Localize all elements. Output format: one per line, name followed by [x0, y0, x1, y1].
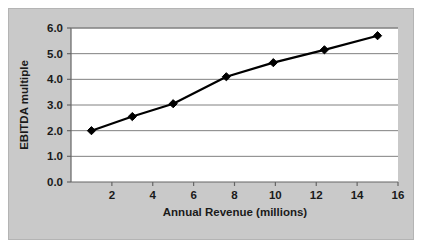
- x-tick-label-12: 12: [310, 189, 323, 201]
- x-tick-label-2: 2: [109, 189, 115, 201]
- y-tick-label-1: 1.0: [47, 150, 63, 162]
- y-tick-label-5: 5.0: [47, 48, 63, 60]
- y-tick-label-2: 2.0: [47, 125, 63, 137]
- y-tick-label-6: 6.0: [47, 22, 63, 34]
- x-tick-label-4: 4: [150, 189, 157, 201]
- x-tick-label-16: 16: [392, 189, 405, 201]
- x-axis-ticks: 246810121416: [109, 182, 405, 201]
- x-tick-label-14: 14: [351, 189, 364, 201]
- x-tick-label-8: 8: [231, 189, 238, 201]
- ebitda-multiple-line-chart: 0.01.02.03.04.05.06.0 246810121416 Annua…: [0, 0, 423, 250]
- y-tick-label-0: 0.0: [47, 176, 63, 188]
- y-tick-label-3: 3.0: [47, 99, 63, 111]
- x-tick-label-10: 10: [269, 189, 282, 201]
- y-axis-ticks: 0.01.02.03.04.05.06.0: [47, 22, 71, 188]
- chart-figure: 0.01.02.03.04.05.06.0 246810121416 Annua…: [0, 0, 423, 250]
- x-tick-label-6: 6: [190, 189, 196, 201]
- x-axis-title: Annual Revenue (millions): [163, 206, 308, 218]
- y-tick-label-4: 4.0: [47, 73, 63, 85]
- y-axis-title: EBITDA multiple: [18, 60, 30, 150]
